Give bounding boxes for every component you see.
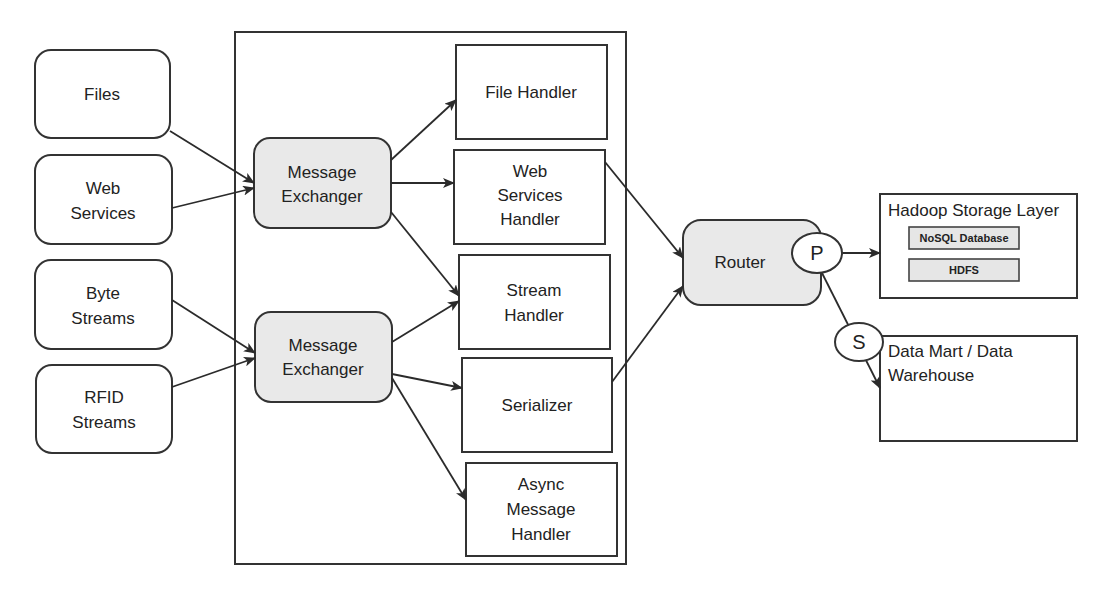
nosql-database-label: NoSQL Database <box>919 232 1008 244</box>
router-label: Router <box>714 253 765 272</box>
web-services-handler-label-3: Handler <box>500 210 560 229</box>
web-services-handler-label-1: Web <box>513 162 548 181</box>
async-message-handler-label-1: Async <box>518 475 565 494</box>
web-services-handler: Web Services Handler <box>454 150 605 244</box>
input-rfid-streams-label-1: RFID <box>84 388 124 407</box>
message-exchanger-2: Message Exchanger <box>255 312 392 402</box>
input-web-services: Web Services <box>35 155 172 244</box>
async-message-handler-label-3: Handler <box>511 525 571 544</box>
input-files: Files <box>35 50 170 138</box>
message-exchanger-1-label-2: Exchanger <box>281 187 363 206</box>
async-message-handler: Async Message Handler <box>466 463 617 556</box>
primary-route-label: P <box>810 242 823 264</box>
stream-handler-label-2: Handler <box>504 306 564 325</box>
data-mart-warehouse: Data Mart / Data Warehouse <box>880 336 1077 441</box>
input-files-label: Files <box>84 85 120 104</box>
input-web-services-label-1: Web <box>86 179 121 198</box>
serializer: Serializer <box>462 358 612 452</box>
async-message-handler-label-2: Message <box>507 500 576 519</box>
message-exchanger-2-label-2: Exchanger <box>282 360 364 379</box>
hdfs-label: HDFS <box>949 264 979 276</box>
file-handler-label: File Handler <box>485 83 577 102</box>
input-byte-streams: Byte Streams <box>35 260 172 349</box>
message-exchanger-1-label-1: Message <box>288 163 357 182</box>
message-exchanger-2-label-1: Message <box>289 336 358 355</box>
architecture-diagram: Files Web Services Byte Streams RFID Str… <box>0 0 1115 590</box>
secondary-route-marker: S <box>835 323 883 361</box>
secondary-route-label: S <box>852 331 865 353</box>
input-web-services-label-2: Services <box>70 204 135 223</box>
stream-handler: Stream Handler <box>459 255 610 349</box>
input-byte-streams-label-2: Streams <box>71 309 134 328</box>
data-mart-label-1: Data Mart / Data <box>888 342 1013 361</box>
message-exchanger-1: Message Exchanger <box>254 138 391 228</box>
hadoop-storage-layer: Hadoop Storage Layer NoSQL Database HDFS <box>880 194 1077 298</box>
input-rfid-streams: RFID Streams <box>36 365 172 453</box>
hadoop-storage-layer-title: Hadoop Storage Layer <box>888 201 1059 220</box>
data-mart-label-2: Warehouse <box>888 366 974 385</box>
web-services-handler-label-2: Services <box>497 186 562 205</box>
stream-handler-label-1: Stream <box>507 281 562 300</box>
primary-route-marker: P <box>792 233 842 273</box>
serializer-label: Serializer <box>502 396 573 415</box>
input-rfid-streams-label-2: Streams <box>72 413 135 432</box>
input-byte-streams-label-1: Byte <box>86 284 120 303</box>
file-handler: File Handler <box>456 45 607 139</box>
